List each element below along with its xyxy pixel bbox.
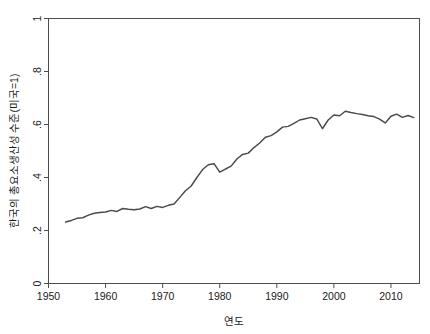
chart-container: 0.2.4.6.81 1950196019701980199020002010 … — [0, 0, 430, 334]
y-tick-label: 1 — [31, 15, 43, 21]
y-tick-label: 0 — [31, 280, 43, 286]
x-tick-label: 2000 — [322, 290, 346, 302]
x-tick-label: 1970 — [151, 290, 175, 302]
x-tick-label: 1960 — [94, 290, 118, 302]
y-tick-label: .2 — [31, 226, 43, 235]
x-tick-label: 2010 — [379, 290, 403, 302]
y-tick-label: .6 — [31, 120, 43, 129]
x-tick-label: 1990 — [265, 290, 289, 302]
x-tick-label: 1950 — [37, 290, 61, 302]
y-axis-title: 한국의 총요소생산성 수준(미국=1) — [8, 74, 20, 229]
x-tick-label: 1980 — [208, 290, 232, 302]
y-tick-label: .8 — [31, 67, 43, 76]
x-axis-title: 연도 — [224, 315, 244, 327]
line-chart: 0.2.4.6.81 1950196019701980199020002010 … — [0, 0, 430, 334]
y-tick-label: .4 — [31, 173, 43, 182]
